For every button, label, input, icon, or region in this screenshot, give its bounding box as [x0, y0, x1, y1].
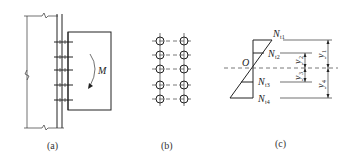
- dim-label-y4: y 4: [315, 80, 327, 89]
- moment-arrow-icon: [90, 54, 95, 86]
- force-label-t4: N t4: [257, 93, 270, 105]
- origin-label: O: [242, 57, 249, 68]
- force-label-t1: N t1: [272, 28, 285, 40]
- panel-c: O N t1 N t2 N t3 N t4: [224, 28, 338, 150]
- caption-a: (a): [47, 140, 58, 152]
- svg-text:1: 1: [321, 50, 327, 53]
- caption-c: (c): [275, 138, 286, 150]
- svg-text:t2: t2: [275, 54, 280, 60]
- svg-text:t4: t4: [265, 99, 270, 105]
- dim-label-y1: y 1: [315, 50, 327, 59]
- distribution-line: [230, 40, 272, 98]
- svg-text:3: 3: [298, 72, 304, 75]
- svg-text:t3: t3: [265, 82, 270, 88]
- caption-b: (b): [161, 140, 173, 152]
- top-break-mark: [24, 13, 58, 18]
- figure-canvas: M (a) (b): [0, 0, 349, 167]
- moment-arrowhead-icon: [88, 83, 93, 89]
- panel-a: M (a): [24, 13, 111, 152]
- force-label-t3: N t3: [257, 76, 270, 88]
- svg-text:t1: t1: [280, 34, 285, 40]
- bottom-break-mark: [24, 125, 64, 130]
- svg-text:4: 4: [321, 80, 327, 83]
- svg-text:2: 2: [298, 56, 304, 59]
- dim-label-y3: y 3: [292, 72, 304, 81]
- force-label-t2: N t2: [267, 48, 280, 60]
- bolt-grid: [152, 37, 192, 103]
- panel-b: (b): [152, 33, 192, 152]
- moment-label: M: [97, 65, 107, 76]
- dim-label-y2: y 2: [292, 56, 304, 65]
